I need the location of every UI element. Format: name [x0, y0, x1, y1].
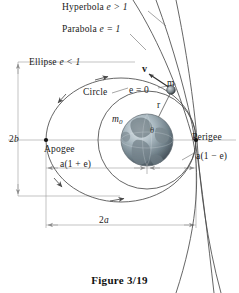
- perigee-distance-label: a(1 − e): [196, 152, 227, 162]
- satellite-mass-label: m: [167, 79, 175, 89]
- velocity-vector-label: v: [142, 64, 147, 74]
- apogee-label: Apogee: [44, 145, 75, 155]
- parabola-label: Parabola e = 1: [62, 25, 121, 35]
- perigee-label: Perigee: [192, 133, 222, 143]
- apogee-point-marker: [44, 138, 48, 142]
- hyperbola-leader: [148, 11, 166, 26]
- circle-label: Circle: [83, 88, 107, 98]
- orbit-figure: Hyperbola e > 1 Parabola e = 1 Ellipse e…: [0, 0, 239, 293]
- semi-minor-dim-label: 2b: [9, 135, 19, 145]
- circle-leader: [112, 88, 128, 93]
- circle-eccentricity-label: e = 0: [129, 86, 149, 96]
- hyperbola-label: Hyperbola e > 1: [62, 3, 128, 13]
- semi-major-dim-label: 2a: [99, 216, 109, 226]
- parabola-leader: [130, 34, 146, 50]
- radius-label: r: [157, 101, 160, 111]
- orbit-diagram-svg: [0, 0, 239, 293]
- earth-globe: [121, 114, 173, 166]
- ellipse-label: Ellipse e < 1: [29, 58, 81, 68]
- theta-angle-label: θ: [150, 126, 154, 135]
- apogee-distance-label: a(1 + e): [60, 160, 91, 170]
- figure-caption: Figure 3/19: [0, 274, 239, 286]
- central-mass-label: m0: [112, 115, 123, 126]
